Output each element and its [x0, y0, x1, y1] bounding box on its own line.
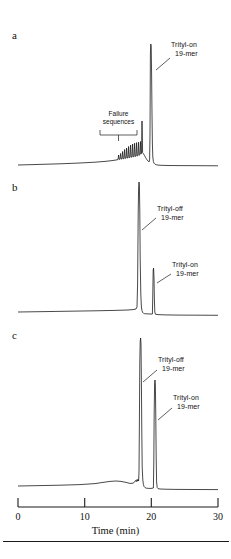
- axis-line-and-ticks: [0, 497, 231, 511]
- failure-sequences-line1: Failure: [109, 110, 129, 117]
- panel-a-trace: [0, 14, 231, 174]
- panel-c-annotation-trityl-off: Trityl-off 19-mer: [158, 356, 185, 373]
- failure-sequences-line2: sequences: [103, 118, 134, 125]
- panel-b-trace: [0, 174, 231, 322]
- panel-a: a Failure sequences Trityl-on 19-mer: [0, 14, 231, 174]
- trityl-on-line2: 19-mer: [173, 403, 200, 412]
- panel-c-annotation-trityl-on: Trityl-on 19-mer: [173, 394, 200, 411]
- trityl-off-line1: Trityl-off: [157, 205, 183, 212]
- tick-label-10: 10: [80, 512, 90, 522]
- trityl-on-line1: Trityl-on: [171, 41, 197, 48]
- panel-a-annotation-failure-sequences: Failure sequences: [86, 110, 151, 125]
- trityl-off-line1: Trityl-off: [158, 356, 184, 363]
- trityl-off-line2: 19-mer: [158, 365, 185, 374]
- trityl-on-line1: Trityl-on: [172, 261, 198, 268]
- trityl-on-line2: 19-mer: [171, 50, 198, 59]
- tick-label-30: 30: [213, 512, 223, 522]
- panel-b-annotation-trityl-on: Trityl-on 19-mer: [172, 261, 199, 278]
- panel-b: b Trityl-off 19-mer Trityl-on 19-mer: [0, 174, 231, 322]
- panel-b-annotation-trityl-off: Trityl-off 19-mer: [157, 205, 184, 222]
- tick-label-0: 0: [16, 512, 21, 522]
- trityl-off-line2: 19-mer: [157, 214, 184, 223]
- axis-title: Time (min): [0, 525, 231, 536]
- footer-divider: [3, 541, 229, 542]
- tick-label-20: 20: [146, 512, 156, 522]
- panel-a-annotation-trityl-on: Trityl-on 19-mer: [171, 41, 198, 58]
- panel-c: c Trityl-off 19-mer Trityl-on 19-mer: [0, 322, 231, 497]
- time-axis: 0 10 20 30 Time (min): [0, 497, 231, 541]
- trityl-on-line2: 19-mer: [172, 270, 199, 279]
- chromatogram-figure: a Failure sequences Trityl-on 19-mer b: [0, 0, 231, 559]
- trityl-on-line1: Trityl-on: [173, 394, 199, 401]
